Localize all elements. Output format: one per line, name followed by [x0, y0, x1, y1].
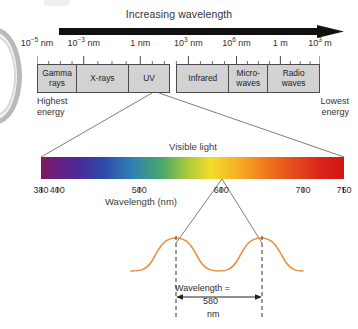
wavelength-tick-label-380: 380 — [33, 185, 48, 195]
em-band-label-line1: X-rays — [90, 74, 114, 84]
em-band-x-rays: X-rays — [77, 64, 129, 93]
lowest-energy-label: Lowest energy — [320, 96, 349, 117]
em-band-microwaves: Micro-waves — [229, 64, 268, 93]
em-scale-tick-label-2: 1 nm — [130, 38, 150, 48]
em-band-label-line1: UV — [143, 74, 155, 84]
wavelength-tick-label-400: 400 — [50, 185, 65, 195]
wavelength-tick-label-700: 700 — [296, 185, 311, 195]
increasing-wavelength-label: Increasing wavelength — [0, 8, 358, 20]
em-band-visible-notch — [170, 64, 177, 93]
em-band-radio-waves: Radiowaves — [268, 64, 320, 93]
em-scale-tick-label-0: 10−5 nm — [21, 38, 53, 48]
em-spectrum-figure: Increasing wavelength 10−5 nm10−3 nm1 nm… — [0, 0, 358, 329]
em-scale-tick-label-3: 103 nm — [174, 38, 203, 48]
em-band-label-line2: waves — [282, 79, 306, 89]
increasing-wavelength-arrow-icon — [59, 24, 344, 37]
em-band-gamma-rays: Gammarays — [37, 64, 77, 93]
highest-energy-line2: energy — [37, 107, 68, 118]
visible-light-caption: Visible light — [37, 141, 349, 152]
em-band-bar: GammaraysX-raysUVInfraredMicro-wavesRadi… — [37, 64, 320, 93]
wavelength-axis-title: Wavelength (nm) — [41, 196, 241, 207]
visible-spectrum-bar — [41, 157, 344, 179]
em-band-ultraviolet: UV — [129, 64, 171, 93]
highest-energy-label: Highest energy — [37, 96, 68, 117]
page-edge-smudge — [44, 0, 70, 6]
lowest-energy-line2: energy — [320, 107, 349, 118]
highest-energy-line1: Highest — [37, 96, 68, 107]
wavelength-annotation-unit: nm — [207, 309, 220, 319]
em-band-infrared: Infrared — [177, 64, 229, 93]
em-scale-tick-label-4: 106 nm — [222, 38, 251, 48]
lowest-energy-line1: Lowest — [320, 96, 349, 107]
em-scale-tick-label-6: 103 m — [308, 38, 332, 48]
wavelength-annotation-label: Wavelength = — [175, 283, 230, 293]
em-band-label-line2: rays — [42, 79, 72, 89]
wavelength-tick-label-600: 600 — [214, 185, 229, 195]
wavelength-annotation-value: 580 — [203, 296, 218, 306]
em-scale-tick-label-5: 1 m — [273, 38, 288, 48]
wavelength-tick-label-500: 500 — [132, 185, 147, 195]
em-scale-tick-label-1: 10−3 nm — [67, 38, 99, 48]
em-band-label-line1: Infrared — [188, 74, 217, 84]
wavelength-tick-label-750: 750 — [336, 185, 351, 195]
em-scale-labels: 10−5 nm10−3 nm1 nm103 nm106 nm1 m103 m — [26, 38, 346, 52]
em-band-label-line2: waves — [236, 79, 260, 89]
